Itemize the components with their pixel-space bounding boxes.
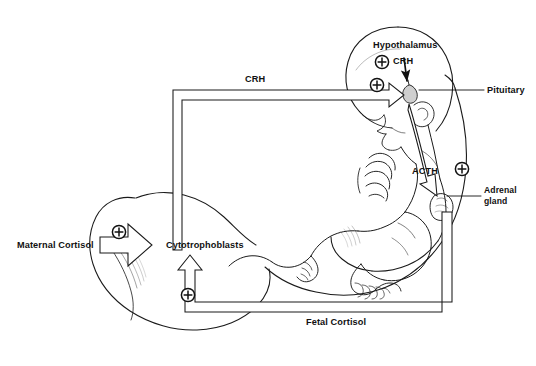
plus-symbol-crh-head (375, 55, 388, 68)
crh-flow-arrow (173, 83, 404, 250)
label-adrenal-gland-line1: Adrenal (484, 186, 517, 196)
umbilical-cord (358, 153, 395, 201)
label-pituitary: Pituitary (487, 85, 525, 95)
figure-canvas: Hypothalamus CRH CRH Pituitary ACTH Adre… (0, 0, 536, 366)
fetal-cortisol-flow-arrow (178, 212, 452, 312)
label-adrenal-gland-line2: gland (484, 197, 507, 207)
label-acth: ACTH (412, 166, 438, 176)
plus-symbol-fetal-cortisol (181, 288, 194, 301)
label-cytotrophoblasts: Cytotrophoblasts (166, 240, 244, 250)
label-crh-flow: CRH (245, 74, 265, 84)
fetus-legs (331, 212, 438, 281)
diagram-illustration (0, 0, 536, 366)
plus-symbol-acth (455, 162, 468, 175)
acth-flow-arrow (408, 104, 437, 196)
plus-symbol-maternal-cortisol (112, 225, 125, 238)
label-crh-head: CRH (393, 56, 413, 66)
label-maternal-cortisol: Maternal Cortisol (17, 240, 94, 250)
plus-symbol-crh-flow (370, 78, 383, 91)
label-hypothalamus: Hypothalamus (373, 40, 438, 50)
pituitary-gland (403, 80, 418, 103)
label-fetal-cortisol: Fetal Cortisol (306, 317, 366, 327)
